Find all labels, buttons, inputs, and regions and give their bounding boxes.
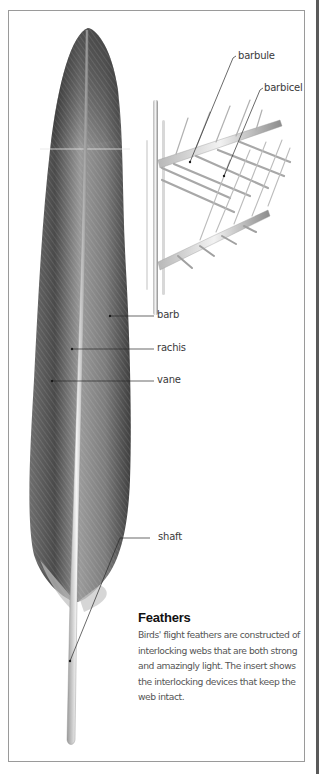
caption: Feathers Birds' flight feathers are cons… [138, 610, 303, 705]
caption-title: Feathers [138, 610, 303, 625]
label-barb: barb [157, 309, 179, 321]
label-shaft: shaft [158, 531, 182, 543]
label-rachis: rachis [157, 342, 186, 354]
label-barbicel: barbicel [264, 82, 303, 94]
caption-body: Birds' flight feathers are constructed o… [138, 627, 303, 705]
label-barbule: barbule [238, 50, 275, 62]
barbule-inset-detail [146, 100, 290, 315]
label-vane: vane [157, 374, 181, 386]
